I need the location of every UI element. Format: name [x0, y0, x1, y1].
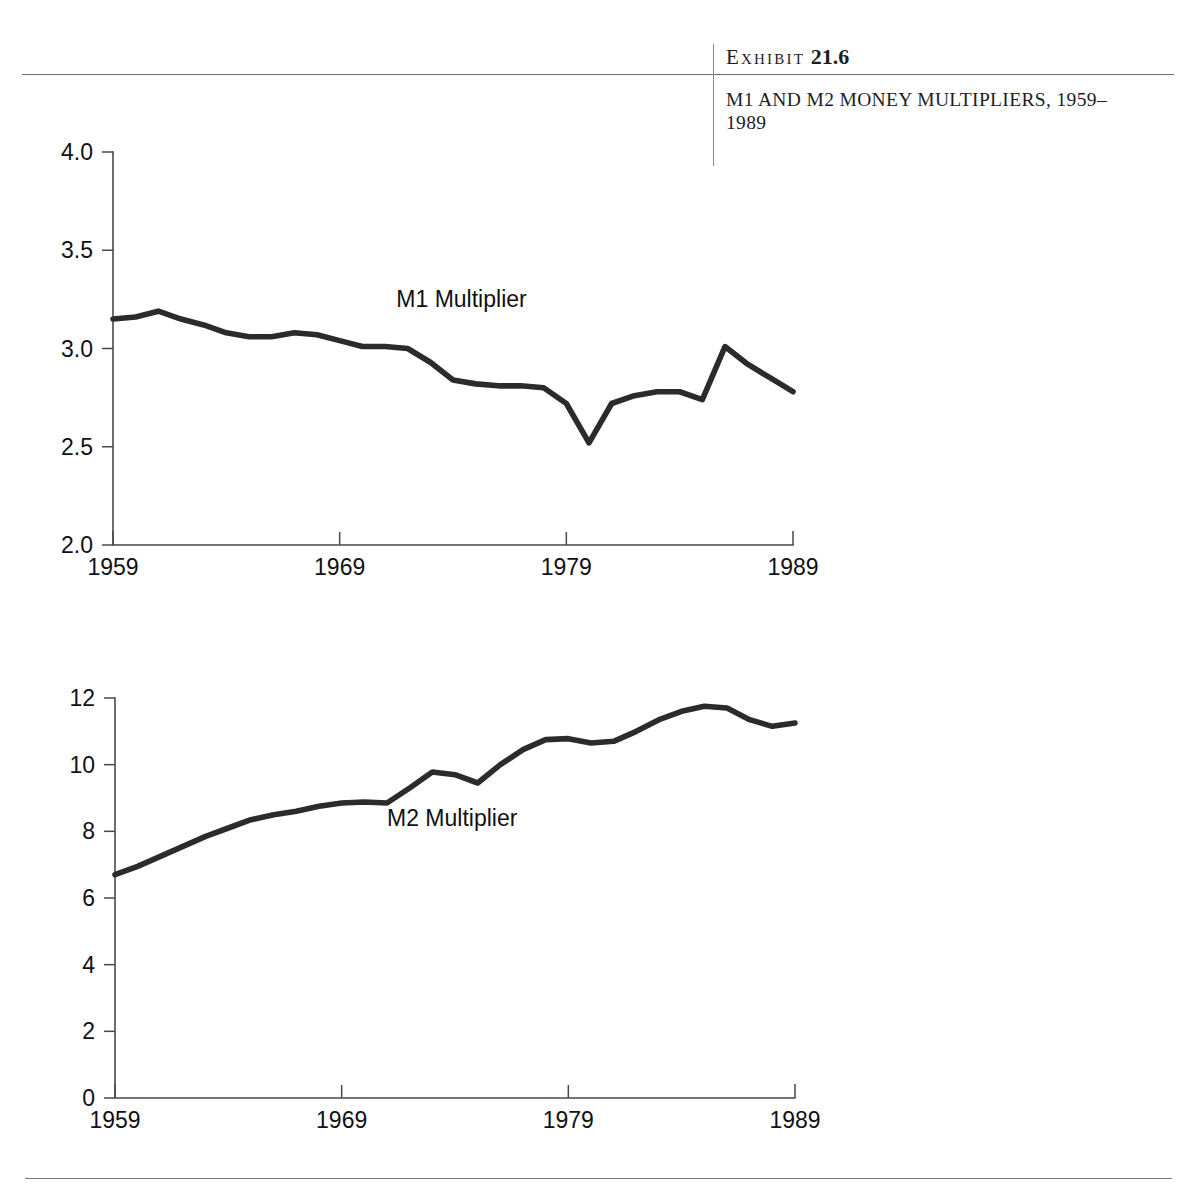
x-tick-label-1989: 1989 — [767, 554, 818, 580]
axis-lines — [113, 152, 793, 545]
y-tick-label-4.0: 4.0 — [61, 139, 93, 165]
x-tick-label-1969: 1969 — [316, 1107, 367, 1133]
x-tick-label-1979: 1979 — [543, 1107, 594, 1133]
footer-rule — [25, 1178, 1172, 1179]
axis-lines — [115, 698, 795, 1098]
y-tick-label-6: 6 — [82, 885, 95, 911]
x-tick-label-1989: 1989 — [769, 1107, 820, 1133]
series-label-m2: M2 Multiplier — [387, 805, 518, 831]
exhibit-label: Exhibit 21.6 — [726, 44, 1156, 70]
y-tick-label-10: 10 — [69, 752, 95, 778]
x-tick-label-1979: 1979 — [541, 554, 592, 580]
series-label-m1: M1 Multiplier — [396, 286, 527, 312]
exhibit-word: Exhibit — [726, 45, 805, 69]
y-tick-label-3.5: 3.5 — [61, 237, 93, 263]
data-line-m1 — [113, 311, 793, 443]
y-tick-label-4: 4 — [82, 952, 95, 978]
y-tick-label-3.0: 3.0 — [61, 336, 93, 362]
exhibit-label-block: Exhibit 21.6 — [726, 44, 1156, 70]
y-tick-label-2.5: 2.5 — [61, 434, 93, 460]
chart-m1-multiplier: 2.02.53.03.54.01959196919791989M1 Multip… — [0, 120, 880, 590]
header-rule-top — [22, 74, 1174, 75]
x-tick-label-1959: 1959 — [89, 1107, 140, 1133]
x-tick-label-1959: 1959 — [87, 554, 138, 580]
data-line-m2 — [115, 706, 795, 874]
y-tick-label-8: 8 — [82, 818, 95, 844]
y-tick-label-12: 12 — [69, 685, 95, 711]
chart-m2-multiplier: 0246810121959196919791989M2 Multiplier — [0, 650, 880, 1170]
exhibit-number: 21.6 — [811, 44, 850, 69]
chart-m2-svg: 0246810121959196919791989M2 Multiplier — [0, 650, 880, 1170]
chart-m1-svg: 2.02.53.03.54.01959196919791989M1 Multip… — [0, 120, 880, 590]
y-tick-label-2: 2 — [82, 1018, 95, 1044]
x-tick-label-1969: 1969 — [314, 554, 365, 580]
